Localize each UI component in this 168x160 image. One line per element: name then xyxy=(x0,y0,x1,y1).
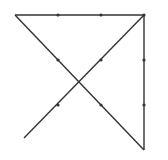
dot-1 xyxy=(56,13,59,16)
nine-dots-diagram xyxy=(0,0,168,160)
dot-7 xyxy=(56,103,59,106)
diagonal-up xyxy=(24,15,144,138)
dot-8 xyxy=(99,103,102,106)
dot-3 xyxy=(142,13,145,16)
dot-9 xyxy=(142,103,145,106)
dot-2 xyxy=(99,13,102,16)
line-segments xyxy=(15,15,144,150)
dot-4 xyxy=(56,58,59,61)
dot-5 xyxy=(99,58,102,61)
dot-6 xyxy=(142,58,145,61)
